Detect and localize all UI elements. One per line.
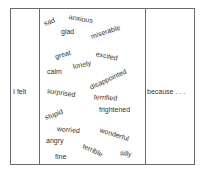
column-divider-left	[39, 9, 40, 164]
feeling-word: glad	[61, 28, 74, 35]
feeling-word: frightened	[99, 106, 130, 113]
feeling-word: calm	[47, 68, 62, 75]
i-felt-label: I felt	[13, 88, 26, 95]
feeling-word: angry	[46, 137, 64, 144]
feeling-word: fine	[55, 153, 66, 160]
because-label: because . . .	[147, 88, 185, 95]
feeling-word: silly	[120, 149, 133, 158]
column-divider-right	[145, 9, 146, 164]
